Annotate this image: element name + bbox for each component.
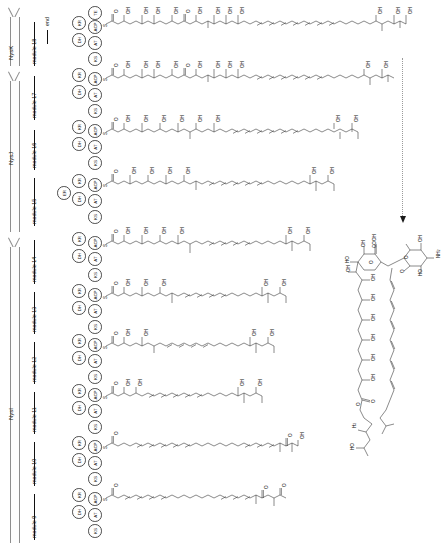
label-oh: OH — [240, 379, 245, 386]
label-oh: OH — [198, 115, 203, 122]
label-oh: OH — [132, 167, 137, 174]
label-oh: OH — [366, 61, 371, 68]
label-oh: OH — [138, 379, 143, 386]
label-o: O — [288, 433, 293, 437]
label-oh: OH — [162, 227, 167, 234]
nh-subscript: 2 — [437, 250, 441, 252]
product-label-o-glycoside: O — [400, 269, 405, 273]
product-label-o-sugar-ring: O — [404, 255, 409, 259]
product-label-oh: OH — [346, 265, 351, 272]
h3-subscript: 3 — [353, 423, 357, 425]
label-o: O — [186, 63, 191, 67]
chain-module-13 — [106, 286, 286, 303]
product-label-oh: OH — [371, 334, 376, 341]
chain-module-18 — [106, 14, 406, 31]
product-label-oh: OH — [371, 374, 376, 381]
label-oh: OH — [186, 167, 191, 174]
label-oh: OH — [144, 115, 149, 122]
label-oh: OH — [168, 167, 173, 174]
label-s: S — [103, 446, 108, 449]
label-oh: OH — [174, 7, 179, 14]
label-s: S — [103, 24, 108, 27]
label-oh: OH — [150, 167, 155, 174]
label-oh: OH — [126, 379, 131, 386]
label-s: S — [103, 132, 108, 135]
label-oh: OH — [258, 379, 263, 386]
label-oh: OH — [144, 7, 149, 14]
label-oh: OH — [144, 279, 149, 286]
label-o: O — [114, 381, 119, 385]
label-oh: OH — [336, 115, 341, 122]
label-oh: OH — [126, 227, 131, 234]
label-oh: OH — [126, 7, 131, 14]
product-label-o-ester: O — [356, 402, 361, 406]
label-o: O — [114, 229, 119, 233]
product-label-h3c: H3 — [352, 423, 357, 428]
chain-module-14 — [106, 234, 310, 253]
product-label-nh2: NH2 — [436, 250, 441, 258]
product-label-oh: OH — [371, 314, 376, 321]
label-oh: OH — [144, 329, 149, 336]
label-oh: OH — [162, 279, 167, 286]
label-oh: OH — [354, 115, 359, 122]
label-oh: OH — [198, 61, 203, 68]
label-oh: OH — [240, 7, 245, 14]
label-oh: OH — [198, 7, 203, 14]
chain-module-10 — [106, 436, 298, 452]
label-oh: OH — [174, 61, 179, 68]
label-oh: OH — [264, 279, 269, 286]
label-oh: OH — [396, 7, 401, 14]
product-label-oh: OH — [418, 235, 423, 242]
label-o: O — [114, 169, 119, 173]
label-o: O — [282, 483, 287, 487]
label-oh: OH — [228, 61, 233, 68]
label-o: O — [114, 117, 119, 121]
product-label-ho: HO — [418, 269, 423, 276]
label-s: S — [103, 184, 108, 187]
label-oh: OH — [126, 61, 131, 68]
dotted-arrow-to-product — [402, 58, 403, 216]
label-oh: OH — [252, 329, 257, 336]
label-oh: OH — [378, 7, 383, 14]
product-label-oh: OH — [361, 240, 366, 247]
label-oh: OH — [384, 61, 389, 68]
label-s: S — [103, 244, 108, 247]
product-label-ho: HO — [345, 256, 350, 263]
label-oh: OH — [144, 227, 149, 234]
label-o: O — [186, 9, 191, 13]
arrow-tip — [400, 216, 406, 223]
label-oh: OH — [282, 279, 287, 286]
label-oh: OH — [240, 61, 245, 68]
chemistry-layer — [0, 0, 448, 554]
label-o: O — [264, 485, 269, 489]
product-label-oh: OH — [371, 274, 376, 281]
chain-module-11 — [106, 386, 262, 403]
label-oh: OH — [300, 432, 305, 439]
label-oh: OH — [228, 7, 233, 14]
label-oh: OH — [162, 115, 167, 122]
label-s: S — [103, 296, 108, 299]
label-o: O — [114, 63, 119, 67]
chain-module-15 — [106, 174, 334, 191]
product-label-oh: OH — [371, 294, 376, 301]
product-label-cooh: COOH — [372, 234, 377, 248]
chain-module-12 — [106, 336, 274, 353]
label-oh: OH — [288, 227, 293, 234]
label-oh: OH — [156, 61, 161, 68]
label-oh: OH — [180, 227, 185, 234]
product-label-oh: OH — [371, 354, 376, 361]
chain-module-9 — [106, 488, 286, 506]
product-label-o-lactone: O — [371, 399, 376, 403]
label-oh: OH — [216, 61, 221, 68]
label-oh: OH — [126, 329, 131, 336]
label-s: S — [103, 78, 108, 81]
label-s: S — [103, 396, 108, 399]
product-label-o-ring: O — [369, 260, 374, 264]
label-oh: OH — [312, 167, 317, 174]
label-oh: OH — [306, 227, 311, 234]
h-text: H — [352, 425, 357, 428]
label-o: O — [114, 331, 119, 335]
label-oh: OH — [216, 115, 221, 122]
label-o: O — [114, 483, 119, 487]
label-s: S — [103, 346, 108, 349]
